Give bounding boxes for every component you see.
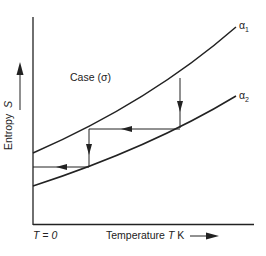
origin-label: T = 0 (33, 229, 57, 241)
x-axis-title: Temperature (106, 229, 165, 241)
x-axis-label: Temperature T K (106, 229, 184, 241)
curve-alpha-1 (33, 27, 236, 153)
y-axis-label: Entropy S (2, 101, 14, 150)
curve-alpha-2-label: α2 (239, 89, 249, 103)
x-axis-symbol: T (168, 229, 174, 241)
alpha-subscript: 1 (245, 26, 249, 33)
arrowhead-left-2 (56, 164, 67, 170)
arrowhead-left-1 (121, 126, 132, 132)
y-axis-symbol: S (2, 101, 14, 108)
diagram-canvas (0, 0, 266, 256)
curve-alpha-2 (33, 96, 236, 186)
entropy-temperature-diagram: Case (σ) α1 α2 Entropy S T = 0 Temperatu… (0, 0, 266, 256)
case-label: Case (σ) (70, 71, 111, 83)
curve-alpha-1-label: α1 (239, 19, 249, 33)
x-arrowhead-icon (206, 233, 219, 240)
y-arrowhead-icon (17, 62, 24, 75)
arrowhead-down-2 (86, 144, 92, 155)
arrowhead-down-1 (177, 101, 183, 112)
y-axis-title: Entropy (2, 114, 14, 150)
origin-text: T = 0 (33, 229, 57, 241)
x-axis-unit: K (177, 229, 184, 241)
alpha-subscript: 2 (245, 96, 249, 103)
